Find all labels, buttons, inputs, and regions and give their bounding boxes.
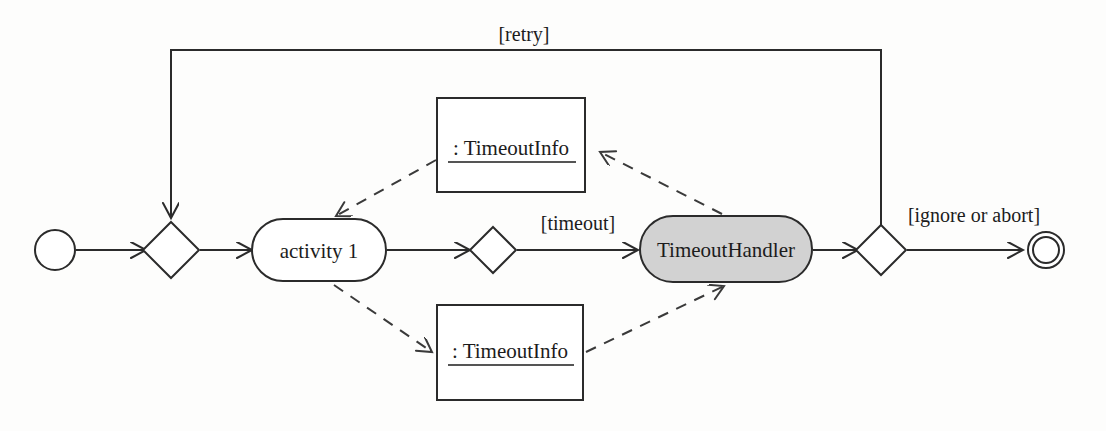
edge-top-object-to-activity1: [336, 160, 436, 216]
activity-node-label: activity 1: [280, 239, 359, 263]
final-node[interactable]: [1028, 232, 1064, 268]
end-decision-node[interactable]: [856, 225, 906, 275]
edge-label-ignore-or-abort: [ignore or abort]: [908, 204, 1040, 227]
object-node-bottom-label: : TimeoutInfo: [452, 339, 568, 363]
timeout-decision-node[interactable]: [470, 227, 516, 273]
uml-activity-diagram: [retry] activity 1 [timeout] TimeoutHand…: [0, 0, 1106, 431]
edge-label-retry: [retry]: [498, 23, 549, 46]
timeout-handler-label: TimeoutHandler: [657, 238, 795, 262]
initial-node[interactable]: [35, 230, 75, 270]
edge-activity1-to-bottom-object: [334, 285, 432, 352]
edge-bottom-object-to-handler: [586, 286, 724, 352]
edge-label-timeout: [timeout]: [541, 212, 615, 234]
diagram-canvas: [retry] activity 1 [timeout] TimeoutHand…: [0, 0, 1106, 431]
object-node-top-label: : TimeoutInfo: [453, 136, 569, 160]
merge-node[interactable]: [143, 222, 199, 278]
edge-handler-to-top-object: [600, 152, 722, 214]
